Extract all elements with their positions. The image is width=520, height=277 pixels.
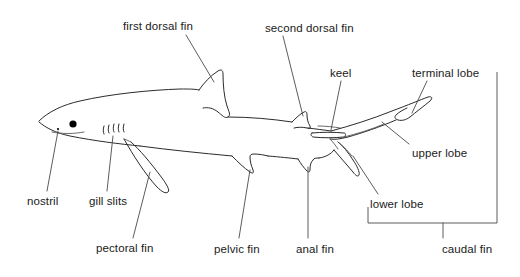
dorsal-contour: [39, 89, 199, 121]
label-gill-slits: gill slits: [89, 195, 127, 207]
gill-slit: [108, 125, 109, 133]
leader-pectoral-fin: [133, 172, 150, 238]
caudal-upper-lobe-bottom: [330, 120, 396, 139]
belly-contour-rear: [268, 156, 298, 159]
leader-upper-lobe: [382, 122, 409, 144]
second-dorsal-fin-shape: [292, 112, 310, 129]
leader-terminal-lobe: [412, 81, 427, 113]
leader-second-dorsal-fin: [283, 36, 303, 116]
anal-fin-shape: [298, 158, 319, 172]
leader-nostril: [47, 131, 58, 191]
label-pectoral-fin: pectoral fin: [96, 242, 153, 254]
nostril-mark: [57, 128, 59, 130]
shark-anatomy-diagram: first dorsal fin second dorsal fin keel …: [0, 0, 520, 277]
caudal-peduncle-top: [308, 128, 331, 131]
belly-contour: [140, 146, 232, 156]
first-dorsal-fin-shape: [199, 70, 230, 118]
label-lower-lobe: lower lobe: [370, 198, 423, 210]
label-nostril: nostril: [27, 195, 58, 207]
label-keel: keel: [330, 67, 352, 79]
terminal-lobe-shape: [395, 108, 410, 120]
gill-slit: [113, 124, 114, 132]
label-anal-fin: anal fin: [296, 243, 334, 255]
leader-first-dorsal-fin: [186, 35, 214, 82]
caudal-lower-lobe-inner: [330, 139, 338, 149]
leader-keel: [331, 81, 341, 130]
gill-slit: [123, 124, 124, 132]
leader-lower-lobe: [353, 156, 378, 194]
ventral-contour: [39, 122, 140, 146]
shark-body-outline: [39, 70, 432, 193]
leader-pelvic-fin: [239, 170, 250, 238]
label-second-dorsal-fin: second dorsal fin: [265, 22, 354, 34]
leader-gill-slits: [107, 136, 113, 191]
label-pelvic-fin: pelvic fin: [214, 243, 260, 255]
label-first-dorsal-fin: first dorsal fin: [123, 20, 193, 32]
diagram-canvas: [0, 0, 520, 277]
label-upper-lobe: upper lobe: [412, 147, 467, 159]
label-caudal-fin: caudal fin: [442, 243, 492, 255]
keel-shape: [311, 132, 346, 138]
dorsal-contour-mid: [228, 117, 292, 122]
eye-icon: [69, 120, 76, 127]
label-terminal-lobe: terminal lobe: [412, 67, 479, 79]
gill-slit: [118, 124, 119, 132]
precaudal-pit: [318, 126, 340, 128]
gill-slit: [103, 126, 104, 134]
caudal-peduncle-bottom: [319, 150, 334, 158]
leader-lines: [47, 35, 497, 238]
gill-slits-group: [103, 124, 124, 134]
